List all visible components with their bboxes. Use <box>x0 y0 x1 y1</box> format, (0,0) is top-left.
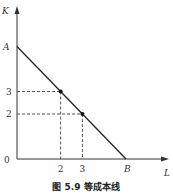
x-tick-label: 2 <box>58 164 64 174</box>
isocost-diagram: K L 0 A B 2323 图 5.9 等成本线 <box>0 0 173 194</box>
point-b-label: B <box>123 164 131 174</box>
x-axis-label: L <box>163 168 170 178</box>
origin-label: 0 <box>4 155 10 165</box>
figure-caption: 图 5.9 等成本线 <box>52 181 119 192</box>
isocost-line <box>17 47 126 160</box>
y-axis-arrow <box>15 6 20 14</box>
x-axis-arrow <box>161 157 169 162</box>
data-point <box>80 112 84 116</box>
x-tick-label: 3 <box>80 164 86 174</box>
y-tick-label: 2 <box>6 109 12 119</box>
point-a-label: A <box>2 42 10 52</box>
data-point <box>59 90 63 94</box>
y-tick-label: 3 <box>6 87 12 97</box>
y-axis-label: K <box>1 6 10 16</box>
